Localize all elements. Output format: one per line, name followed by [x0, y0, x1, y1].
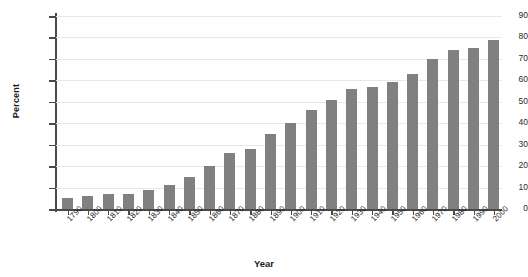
- bar: [265, 134, 276, 209]
- bar: [427, 59, 438, 209]
- bar: [103, 194, 114, 209]
- bar: [326, 100, 337, 209]
- bar: [82, 196, 93, 209]
- plot-area: [56, 16, 502, 209]
- y-tick-label: 20: [502, 161, 528, 170]
- bar: [204, 166, 215, 209]
- y-tick-label: 30: [502, 140, 528, 149]
- bar: [285, 123, 296, 209]
- y-tick-mark: [49, 145, 55, 147]
- y-tick-label: 50: [502, 97, 528, 106]
- bar: [367, 87, 378, 209]
- y-tick-label: 40: [502, 118, 528, 127]
- y-tick-mark: [49, 80, 55, 82]
- y-axis-title: Percent: [11, 61, 21, 141]
- bar-chart: Percent 0102030405060708090 179018001810…: [0, 0, 528, 277]
- y-tick-label: 70: [502, 54, 528, 63]
- bar: [143, 190, 154, 209]
- bar: [245, 149, 256, 209]
- y-tick-mark: [49, 166, 55, 168]
- y-tick-mark: [49, 123, 55, 125]
- y-tick-label: 10: [502, 183, 528, 192]
- y-tick-mark: [49, 59, 55, 61]
- bar: [448, 50, 459, 209]
- y-tick-mark: [49, 16, 55, 18]
- gridline: [56, 16, 502, 17]
- y-tick-mark: [49, 188, 55, 190]
- y-tick-mark: [49, 37, 55, 39]
- bar: [164, 185, 175, 209]
- bar: [306, 110, 317, 209]
- bar: [468, 48, 479, 209]
- bar: [387, 82, 398, 209]
- y-tick-mark: [49, 209, 55, 211]
- x-axis-title: Year: [0, 258, 528, 269]
- bar: [62, 198, 73, 209]
- gridline: [56, 37, 502, 38]
- bar: [488, 40, 499, 209]
- bar: [123, 194, 134, 209]
- bar: [407, 74, 418, 209]
- y-tick-label: 80: [502, 32, 528, 41]
- y-tick-label: 60: [502, 75, 528, 84]
- y-tick-mark: [49, 102, 55, 104]
- bar: [224, 153, 235, 209]
- bar: [184, 177, 195, 209]
- bar: [346, 89, 357, 209]
- y-tick-label: 90: [502, 11, 528, 20]
